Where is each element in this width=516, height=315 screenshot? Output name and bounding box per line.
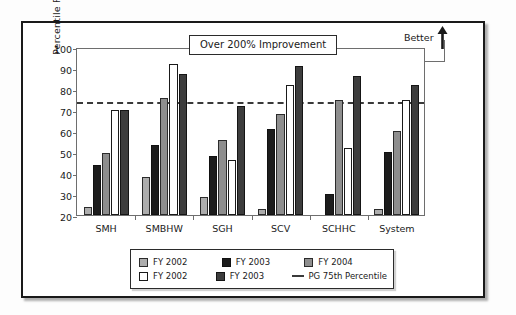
- y-axis-tick-label: 50: [60, 149, 72, 160]
- bar: [258, 209, 266, 215]
- bar: [295, 66, 303, 215]
- legend-item: PG 75th Percentile: [292, 271, 387, 281]
- legend-item: FY 2003: [216, 271, 293, 281]
- bar: [209, 156, 217, 215]
- better-arrow-connector-horizontal: [425, 61, 445, 62]
- bar: [169, 64, 177, 215]
- bar: [179, 74, 187, 215]
- legend-row: FY 2002 FY 2003 PG 75th Percentile: [139, 269, 387, 283]
- bar: [151, 145, 159, 215]
- y-axis-tick-label: 40: [60, 170, 72, 181]
- x-axis-tick-mark: [252, 215, 253, 220]
- y-axis-tick-label: 90: [60, 65, 72, 76]
- y-axis-tick-mark: [73, 217, 77, 218]
- bar: [142, 177, 150, 215]
- x-axis-group-label: System: [379, 223, 414, 234]
- legend-label: FY 2004: [318, 257, 352, 267]
- bar: [384, 152, 392, 215]
- bar: [93, 165, 101, 215]
- bar: [84, 207, 92, 215]
- y-axis-tick-mark: [73, 133, 77, 134]
- bar: [276, 114, 284, 215]
- bar: [120, 110, 128, 215]
- x-axis-tick-mark: [368, 215, 369, 220]
- y-axis-tick-label: 20: [60, 212, 72, 223]
- bar: [393, 131, 401, 215]
- y-axis-tick-label: 80: [60, 86, 72, 97]
- x-axis-tick-mark: [310, 215, 311, 220]
- legend-item: FY 2002: [139, 271, 216, 281]
- improvement-callout-annotation: Over 200% Improvement: [189, 35, 337, 55]
- x-axis-group-label: SMBHW: [146, 223, 183, 234]
- y-axis-tick-mark: [73, 91, 77, 92]
- legend-label: FY 2003: [230, 271, 264, 281]
- legend-item: FY 2004: [304, 257, 387, 267]
- bar: [402, 100, 410, 216]
- y-axis-tick-mark: [73, 175, 77, 176]
- y-axis-tick-label: 70: [60, 107, 72, 118]
- chart-figure: Over 200% Improvement Better Percentile …: [0, 0, 516, 315]
- x-axis-tick-mark: [135, 215, 136, 220]
- legend-label: FY 2003: [236, 257, 270, 267]
- bar: [160, 98, 168, 215]
- legend-swatch-light-gray: [139, 258, 148, 267]
- bar: [111, 110, 119, 215]
- y-axis-tick-mark: [73, 112, 77, 113]
- y-axis-tick-mark: [73, 49, 77, 50]
- bar: [237, 106, 245, 215]
- legend-swatch-white: [139, 272, 148, 281]
- x-axis-group-label: SGH: [212, 223, 233, 234]
- better-direction-annotation: Better: [404, 26, 448, 49]
- better-label: Better: [404, 32, 434, 43]
- y-axis-tick-mark: [73, 196, 77, 197]
- legend-swatch-mid-gray: [304, 258, 313, 267]
- bar: [218, 140, 226, 215]
- legend-label: FY 2002: [153, 271, 187, 281]
- bar: [102, 153, 110, 215]
- bar: [411, 85, 419, 215]
- legend-swatch-dashed-line: [292, 275, 304, 277]
- legend-row: FY 2002 FY 2003 FY 2004: [139, 255, 387, 269]
- legend-label: FY 2002: [153, 257, 187, 267]
- x-axis-group-label: SCV: [271, 223, 290, 234]
- y-axis-tick-mark: [73, 154, 77, 155]
- bar: [374, 209, 382, 215]
- bar: [200, 197, 208, 215]
- legend-swatch-black: [222, 258, 231, 267]
- legend-label: PG 75th Percentile: [308, 271, 387, 281]
- y-axis-tick-mark: [73, 70, 77, 71]
- x-axis-group-label: SMH: [95, 223, 116, 234]
- up-arrow-icon: [437, 26, 448, 49]
- plot-inner: 2030405060708090100SMHSMBHWSGHSCVSCHHCSy…: [77, 49, 424, 215]
- chart-legend: FY 2002 FY 2003 FY 2004 FY 2002 FY 2003: [130, 249, 394, 289]
- bar: [228, 160, 236, 215]
- x-axis-group-label: SCHHC: [322, 223, 356, 234]
- bar: [267, 129, 275, 215]
- y-axis-tick-label: 30: [60, 191, 72, 202]
- bar: [325, 194, 333, 215]
- plot-area: Percentile Ranking 2030405060708090100SM…: [76, 48, 425, 216]
- x-axis-tick-mark: [193, 215, 194, 220]
- bar: [286, 85, 294, 215]
- legend-item: FY 2002: [139, 257, 222, 267]
- y-axis-tick-label: 60: [60, 128, 72, 139]
- legend-swatch-dark-gray: [216, 272, 225, 281]
- bar: [335, 100, 343, 216]
- reference-line-pg-75th-percentile: [77, 102, 424, 104]
- y-axis-tick-label: 100: [54, 44, 72, 55]
- bar: [344, 148, 352, 215]
- legend-item: FY 2003: [222, 257, 305, 267]
- bar: [353, 76, 361, 215]
